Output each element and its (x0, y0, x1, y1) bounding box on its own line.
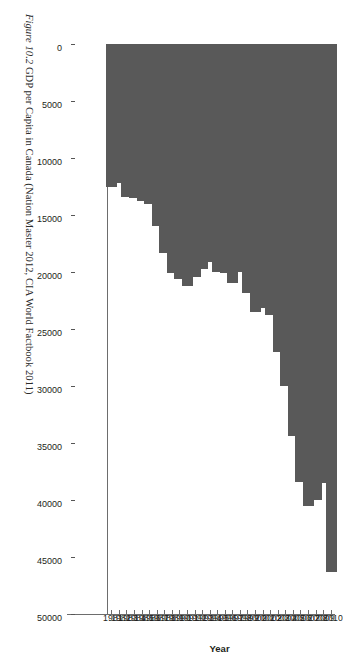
value-tick-mark (71, 386, 75, 387)
value-tick-mark (71, 272, 75, 273)
value-tick-mark (71, 329, 75, 330)
bar-chart: Dollar (in term of US$) 0500010000150002… (67, 0, 335, 635)
value-tick-mark (71, 215, 75, 216)
value-tick-mark (71, 557, 75, 558)
bar-row (326, 44, 337, 572)
figure-number: Figure 10.2 (24, 14, 35, 64)
value-tick-mark (71, 443, 75, 444)
value-tick-mark (71, 101, 75, 102)
value-tick-mark (71, 500, 75, 501)
figure-caption-text: GDP per Capita in Canada (Nation Master … (24, 67, 35, 395)
value-tick-mark (71, 44, 75, 45)
value-tick-mark (71, 158, 75, 159)
figure-caption: Figure 10.2 GDP per Capita in Canada (Na… (24, 14, 35, 626)
bar (326, 44, 337, 572)
value-tick-mark (71, 614, 75, 615)
bars-layer (108, 44, 335, 614)
category-axis-title: Year (210, 643, 230, 654)
category-tick-label: 2010 (323, 613, 343, 623)
